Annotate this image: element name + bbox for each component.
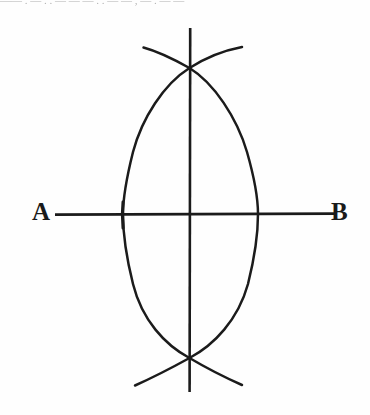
arc-left-baseline-crossing bbox=[122, 202, 123, 228]
arc-left-tail-bottom bbox=[135, 358, 190, 386]
figure-canvas: —— . — . . — — — . . — — , — . — — A B bbox=[0, 0, 370, 415]
arc-right-tail-top bbox=[190, 47, 243, 68]
arc-right-tail-bottom bbox=[190, 358, 243, 385]
segment-ab-line bbox=[55, 214, 335, 215]
point-label-b: B bbox=[331, 199, 348, 224]
arc-left-tail-top bbox=[144, 48, 190, 69]
construction-drawing bbox=[0, 0, 370, 415]
vertical-bisector-line bbox=[190, 28, 191, 392]
point-label-a: A bbox=[32, 199, 50, 224]
